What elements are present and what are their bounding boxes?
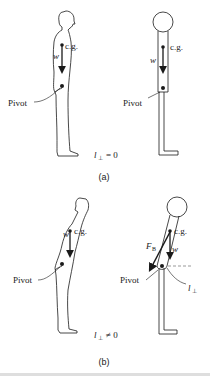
model-b-weight-label: w (172, 244, 178, 254)
model-a-pivot-label: Pivot (123, 98, 143, 108)
leaning-person-figure (55, 198, 89, 333)
person-a-cg-label: c.g. (65, 41, 78, 51)
pivot-leader-line (146, 270, 158, 280)
panel-a-label: (a) (99, 172, 110, 182)
person-a-cg-marker (34, 43, 64, 102)
pivot-dot-icon (161, 86, 165, 90)
model-a-weight-label: w (150, 55, 156, 65)
model-a-cg-marker (148, 45, 165, 98)
model-b-lever-label: l (188, 283, 191, 293)
person-a-weight-label: w (53, 51, 59, 61)
cropped-caption-line (0, 370, 210, 378)
standing-person-figure (53, 11, 78, 156)
pivot-dot-icon (160, 264, 164, 268)
equation-a-lhs: l (94, 150, 97, 160)
lever-arm-leader-line (167, 268, 186, 284)
model-b-cg-label: c.g. (174, 226, 187, 236)
person-b-cg-label: c.g. (74, 226, 87, 236)
pivot-dot-icon (60, 84, 64, 88)
person-a-pivot-label: Pivot (8, 98, 28, 108)
equation-a-sub: ⊥ (98, 155, 103, 161)
model-b-pivot-label: Pivot (120, 275, 140, 285)
pivot-leader-line (148, 92, 160, 98)
model-b-lever-sub: ⊥ (192, 288, 197, 294)
panel-b-label: (b) (99, 357, 110, 367)
model-b-force-sub: B (152, 246, 156, 252)
upright-model-figure (153, 12, 178, 155)
pivot-dot-icon (60, 262, 64, 266)
model-a-cg-label: c.g. (170, 42, 183, 52)
equation-b-rhs: ≠ 0 (106, 330, 118, 340)
figure-canvas: c.g. w Pivot c.g. w Pivot l ⊥ = 0 (a) c.… (0, 0, 210, 378)
equation-b-lhs: l (94, 330, 97, 340)
model-b-force-label: F (145, 241, 152, 251)
person-b-pivot-label: Pivot (13, 275, 33, 285)
equation-a-rhs: = 0 (106, 150, 118, 160)
equation-b-sub: ⊥ (98, 335, 103, 341)
person-b-weight-label: w (63, 229, 69, 239)
